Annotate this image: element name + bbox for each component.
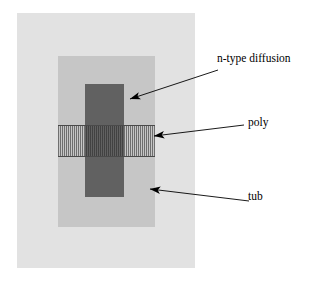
layer-poly [58, 125, 155, 157]
callout-label-poly: poly [248, 116, 268, 129]
layout-diagram: n-type diffusion poly tub [0, 0, 329, 284]
callout-label-tub: tub [248, 190, 263, 203]
callout-label-n-type-diffusion: n-type diffusion [217, 52, 291, 65]
